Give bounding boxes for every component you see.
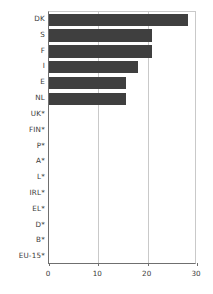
y-axis-label: L*	[37, 169, 45, 185]
y-axis-label: UK*	[31, 106, 45, 122]
y-axis-label: B*	[36, 232, 45, 248]
bar-row	[49, 12, 197, 28]
bar-row	[49, 139, 197, 155]
bar-row	[49, 123, 197, 139]
bar	[49, 14, 188, 26]
bar-series	[49, 12, 195, 263]
y-axis-label: DK	[34, 11, 45, 27]
x-axis-tick	[98, 263, 99, 266]
y-axis-category-labels: DKSFIENLUK*FIN*P*A*L*IRL*EL*D*B*EU-15*	[0, 11, 45, 264]
x-axis-tick	[49, 263, 50, 266]
bar-row	[49, 107, 197, 123]
x-axis-tick	[197, 263, 198, 266]
bar-row	[49, 202, 197, 218]
bar-chart: DKSFIENLUK*FIN*P*A*L*IRL*EL*D*B*EU-15* 0…	[0, 0, 213, 294]
y-axis-label: EU-15*	[19, 248, 45, 264]
bar	[49, 29, 152, 41]
bar-row	[49, 249, 197, 265]
x-axis-label: 30	[191, 268, 200, 280]
bar	[49, 77, 126, 89]
bar-row	[49, 233, 197, 249]
bar-row	[49, 170, 197, 186]
bar-row	[49, 91, 197, 107]
bar-row	[49, 218, 197, 234]
y-axis-label: F	[41, 43, 45, 59]
bar	[49, 45, 152, 57]
x-axis-tick	[148, 263, 149, 266]
bar	[49, 61, 138, 73]
plot-area	[48, 11, 196, 264]
y-axis-label: A*	[36, 153, 45, 169]
bar-row	[49, 44, 197, 60]
y-axis-label: E	[40, 74, 45, 90]
x-axis-label: 10	[93, 268, 102, 280]
bar-row	[49, 186, 197, 202]
bar-row	[49, 28, 197, 44]
x-axis-label: 20	[142, 268, 151, 280]
x-axis-tick-labels: 0102030	[0, 268, 213, 282]
bar-row	[49, 75, 197, 91]
y-axis-label: EL*	[32, 201, 45, 217]
y-axis-label: NL	[35, 90, 45, 106]
bar-row	[49, 154, 197, 170]
y-axis-label: D*	[35, 217, 45, 233]
bar-row	[49, 59, 197, 75]
bar	[49, 93, 126, 105]
y-axis-label: FIN*	[29, 122, 45, 138]
y-axis-label: I	[43, 58, 45, 74]
y-axis-label: IRL*	[29, 185, 45, 201]
y-axis-label: P*	[37, 138, 45, 154]
y-axis-label: S	[40, 27, 45, 43]
x-axis-label: 0	[46, 268, 51, 280]
